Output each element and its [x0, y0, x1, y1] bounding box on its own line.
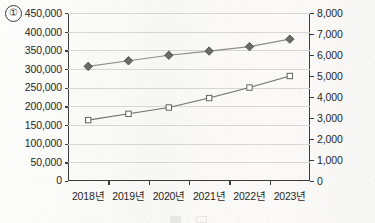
right-tick-label: 6,000	[317, 49, 343, 60]
right-axis-tick	[310, 118, 314, 119]
right-axis-tick	[310, 34, 314, 35]
legend-item	[196, 216, 210, 223]
x-axis-label: 2019년	[108, 188, 148, 203]
series-layer	[68, 13, 310, 181]
data-point-marker	[85, 117, 90, 122]
left-tick-label: 300,000	[25, 63, 62, 74]
left-tick-label: 200,000	[25, 101, 62, 112]
x-axis-label: 2021년	[189, 188, 229, 203]
right-axis-tick	[310, 55, 314, 56]
right-axis-tick	[310, 139, 314, 140]
left-axis-tick	[65, 181, 69, 182]
data-point-marker	[205, 47, 213, 55]
left-tick-label: 150,000	[25, 119, 62, 130]
x-axis-label: 2020년	[149, 188, 189, 203]
right-tick-label: 8,000	[317, 8, 343, 19]
left-axis-tick-labels: 450,000400,000350,000300,000250,000200,0…	[0, 8, 62, 186]
left-tick-label: 350,000	[25, 45, 62, 56]
chart-legend	[95, 215, 285, 223]
data-point-marker	[287, 73, 292, 78]
x-axis-tick	[108, 181, 109, 185]
right-tick-label: 4,000	[317, 91, 343, 102]
left-tick-label: 0	[56, 175, 62, 186]
right-axis-tick	[310, 97, 314, 98]
right-axis-tick	[310, 13, 314, 14]
left-tick-label: 100,000	[25, 138, 62, 149]
x-axis-tick	[229, 181, 230, 185]
data-point-marker	[165, 51, 173, 59]
left-tick-label: 450,000	[25, 8, 62, 19]
right-tick-label: 0	[317, 175, 323, 186]
left-tick-label: 400,000	[25, 26, 62, 37]
data-point-marker	[286, 35, 294, 43]
data-point-marker	[126, 111, 131, 116]
x-axis-label: 2023년	[270, 188, 310, 203]
right-tick-label: 5,000	[317, 70, 343, 81]
data-point-marker	[245, 42, 253, 50]
right-tick-label: 3,000	[317, 112, 343, 123]
right-axis-tick	[310, 160, 314, 161]
series-line-2	[88, 76, 290, 120]
data-point-marker	[84, 62, 92, 70]
data-point-marker	[206, 95, 211, 100]
right-axis-tick	[310, 76, 314, 77]
legend-swatch	[170, 216, 181, 223]
legend-item	[170, 216, 184, 223]
right-axis-tick-labels: 8,0007,0006,0005,0004,0003,0002,0001,000…	[317, 8, 375, 186]
series-line-1	[88, 39, 290, 66]
left-tick-label: 50,000	[30, 156, 62, 167]
chart-figure: ① 450,000400,000350,000300,000250,000200…	[0, 0, 375, 223]
plot-area	[68, 13, 310, 181]
x-axis-tick	[189, 181, 190, 185]
x-axis-tick	[270, 181, 271, 185]
data-point-marker	[124, 57, 132, 65]
legend-swatch	[196, 216, 207, 223]
left-tick-label: 250,000	[25, 82, 62, 93]
x-axis-tick	[149, 181, 150, 185]
right-tick-label: 7,000	[317, 28, 343, 39]
x-axis-category-labels: 2018년2019년2020년2021년2022년2023년	[68, 188, 310, 203]
right-tick-label: 2,000	[317, 133, 343, 144]
data-point-marker	[166, 105, 171, 110]
x-axis-label: 2018년	[68, 188, 108, 203]
data-point-marker	[247, 85, 252, 90]
right-axis-tick	[310, 181, 314, 182]
right-tick-label: 1,000	[317, 154, 343, 165]
x-axis-label: 2022년	[229, 188, 269, 203]
